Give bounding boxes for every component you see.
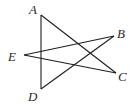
label-point-a: A [28,2,37,17]
label-point-c: C [118,69,127,84]
label-point-b: B [117,26,125,41]
label-point-e: E [7,49,16,64]
label-point-d: D [27,89,38,104]
star-diagram: A B C D E [0,0,133,108]
segment-e-c [24,55,116,73]
